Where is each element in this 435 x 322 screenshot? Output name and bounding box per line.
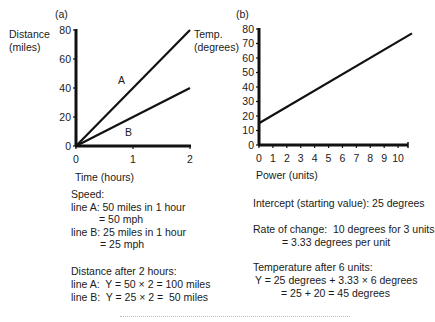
y-tick-label: 80 xyxy=(59,24,71,36)
temperature-result: = 25 + 20 = 45 degrees xyxy=(281,287,390,299)
y-tick-label: 80 xyxy=(242,23,254,35)
series-line-a xyxy=(76,30,190,146)
x-tick-label: 1 xyxy=(270,152,276,164)
chart-a-plot: 020406080012 xyxy=(59,24,193,166)
series-line-b xyxy=(76,88,190,146)
chart-b-plot: 01020304050607080012345678910 xyxy=(242,23,412,165)
panel-a-ylabel-unit: (miles) xyxy=(9,41,41,53)
y-tick-label: 40 xyxy=(59,82,71,94)
x-tick-label: 8 xyxy=(367,152,373,164)
y-tick-label: 20 xyxy=(59,111,71,123)
x-tick-label: 2 xyxy=(187,153,193,165)
x-tick-label: 0 xyxy=(256,152,262,164)
panel-a-ylabel: Distance xyxy=(9,28,50,40)
y-tick-label: 70 xyxy=(242,37,254,49)
y-tick-label: 0 xyxy=(248,139,254,151)
y-tick-label: 0 xyxy=(65,140,71,152)
x-tick-label: 4 xyxy=(312,152,318,164)
y-tick-label: 50 xyxy=(242,66,254,78)
y-tick-label: 60 xyxy=(242,52,254,64)
x-tick-label: 1 xyxy=(130,153,136,165)
x-tick-label: 10 xyxy=(392,152,404,164)
y-tick-label: 60 xyxy=(59,53,71,65)
series-line-temperature xyxy=(259,33,412,123)
rate-note: Rate of change: 10 degrees for 3 units xyxy=(253,223,435,235)
temperature-heading: Temperature after 6 units: xyxy=(253,261,373,273)
panel-b-ylabel-unit: (degrees) xyxy=(194,41,239,53)
rate-note-result: = 3.33 degrees per unit xyxy=(282,236,390,248)
panel-a-xlabel: Time (hours) xyxy=(75,171,134,183)
x-tick-label: 9 xyxy=(381,152,387,164)
speed-line-a: line A: 50 miles in 1 hour xyxy=(71,201,185,213)
temperature-formula: Y = 25 degrees + 3.33 × 6 degrees xyxy=(255,274,417,286)
speed-line-b: line B: 25 miles in 1 hour xyxy=(71,226,186,238)
intercept-note: Intercept (starting value): 25 degrees xyxy=(253,197,425,209)
distance-line-a: line A: Y = 50 × 2 = 100 miles xyxy=(71,278,210,290)
cropped-caption-fragment xyxy=(120,316,350,320)
x-tick-label: 3 xyxy=(298,152,304,164)
distance-heading: Distance after 2 hours: xyxy=(71,265,177,277)
distance-line-b: line B: Y = 25 × 2 = 50 miles xyxy=(71,291,208,303)
panel-a-tag: (a) xyxy=(55,8,68,20)
panel-b-tag: (b) xyxy=(236,8,249,20)
x-tick-label: 2 xyxy=(284,152,290,164)
y-tick-label: 10 xyxy=(242,124,254,136)
speed-line-b-result: = 25 mph xyxy=(100,238,144,250)
panel-b-ylabel: Temp. xyxy=(194,28,223,40)
x-tick-label: 5 xyxy=(326,152,332,164)
x-tick-label: 0 xyxy=(73,153,79,165)
speed-heading: Speed: xyxy=(71,188,104,200)
y-tick-label: 30 xyxy=(242,95,254,107)
line-a-label: A xyxy=(118,74,125,86)
speed-line-a-result: = 50 mph xyxy=(99,213,143,225)
panel-b-xlabel: Power (units) xyxy=(256,169,318,181)
x-tick-label: 7 xyxy=(353,152,359,164)
x-tick-label: 6 xyxy=(340,152,346,164)
line-b-label: B xyxy=(125,126,132,138)
y-tick-label: 20 xyxy=(242,110,254,122)
y-tick-label: 40 xyxy=(242,81,254,93)
